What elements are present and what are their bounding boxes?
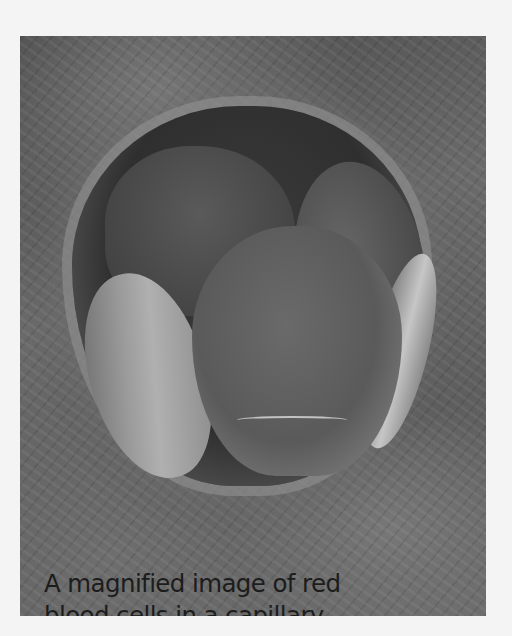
red-blood-cell-center	[192, 226, 402, 476]
image-caption: A magnified image of red blood cells in …	[44, 568, 340, 616]
caption-line-1: A magnified image of red	[44, 568, 340, 600]
caption-line-2: blood cells in a capillary	[44, 600, 340, 616]
micrograph-photo: A magnified image of red blood cells in …	[20, 36, 486, 616]
